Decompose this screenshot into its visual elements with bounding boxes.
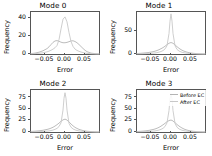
x-ticklabel-mode-1-2: 0.05 (177, 56, 203, 62)
y-ticklabel-mode-3-0: 0 (106, 128, 132, 134)
y-ticklabel-mode-3-2: 50 (106, 105, 132, 111)
y-ticklabel-mode-1-1: 50 (106, 27, 132, 33)
y-ticklabel-mode-1-0: 0 (106, 50, 132, 56)
x-ticklabel-mode-3-2: 0.05 (177, 134, 203, 140)
x-ticklabel-mode-2-2: 0.05 (71, 134, 97, 140)
y-tickmark-mode-3-2 (134, 108, 136, 109)
x-axis-label-mode-3: Error (136, 144, 206, 152)
panel-mode-2: Mode 2 Frequency Error 0255075−0.050.000… (0, 78, 106, 156)
line-after-ec (31, 17, 99, 54)
y-ticklabel-mode-0-1: 20 (0, 32, 26, 38)
y-tickmark-mode-0-0 (28, 53, 30, 54)
series-canvas-mode-0 (31, 12, 99, 54)
y-tickmark-mode-2-3 (28, 96, 30, 97)
legend-swatch-before-ec (170, 94, 178, 95)
line-after-ec (31, 93, 99, 132)
legend-label-before-ec: Before EC (180, 92, 204, 98)
x-ticklabel-mode-0-2: 0.05 (71, 56, 97, 62)
series-canvas-mode-1 (137, 12, 205, 54)
y-tickmark-mode-3-0 (134, 131, 136, 132)
panel-mode-0: Mode 0 Frequency Error 02040−0.050.000.0… (0, 0, 106, 78)
legend-item-after-ec: After EC (170, 98, 206, 105)
y-tickmark-mode-1-0 (134, 53, 136, 54)
series-canvas-mode-2 (31, 90, 99, 132)
x-axis-label-mode-0: Error (30, 66, 100, 74)
plot-area-mode-1 (136, 11, 206, 55)
y-ticklabel-mode-2-2: 50 (0, 105, 26, 111)
line-before-ec (137, 43, 205, 54)
line-after-ec (137, 14, 205, 54)
y-ticklabel-mode-2-3: 75 (0, 94, 26, 100)
y-ticklabel-mode-2-1: 25 (0, 116, 26, 122)
y-tickmark-mode-2-1 (28, 119, 30, 120)
plot-area-mode-2 (30, 89, 100, 133)
line-before-ec (31, 119, 99, 132)
y-tickmark-mode-3-1 (134, 119, 136, 120)
y-tickmark-mode-0-2 (28, 17, 30, 18)
y-tickmark-mode-3-3 (134, 96, 136, 97)
y-tickmark-mode-1-1 (134, 30, 136, 31)
figure-canvas: Mode 0 Frequency Error 02040−0.050.000.0… (0, 0, 212, 156)
legend-swatch-after-ec (170, 101, 178, 102)
legend-label-after-ec: After EC (180, 99, 200, 105)
plot-area-mode-0 (30, 11, 100, 55)
y-ticklabel-mode-3-3: 75 (106, 94, 132, 100)
line-before-ec (31, 41, 99, 54)
panel-title-mode-1: Mode 1 (106, 1, 212, 10)
panel-mode-1: Mode 1 Frequency Error 050−0.050.000.05 (106, 0, 212, 78)
panel-mode-3: Mode 3 Frequency Error Before EC After E… (106, 78, 212, 156)
y-tickmark-mode-2-0 (28, 131, 30, 132)
x-axis-label-mode-2: Error (30, 144, 100, 152)
y-ticklabel-mode-3-1: 25 (106, 116, 132, 122)
y-ticklabel-mode-2-0: 0 (0, 128, 26, 134)
chart-legend: Before EC After EC (168, 90, 208, 106)
legend-item-before-ec: Before EC (170, 91, 206, 98)
panel-title-mode-3: Mode 3 (106, 79, 212, 88)
y-tickmark-mode-0-1 (28, 35, 30, 36)
panel-title-mode-2: Mode 2 (0, 79, 106, 88)
panel-title-mode-0: Mode 0 (0, 1, 106, 10)
x-axis-label-mode-1: Error (136, 66, 206, 74)
line-before-ec (137, 120, 205, 132)
y-tickmark-mode-2-2 (28, 108, 30, 109)
y-ticklabel-mode-0-0: 0 (0, 50, 26, 56)
y-ticklabel-mode-0-2: 40 (0, 14, 26, 20)
